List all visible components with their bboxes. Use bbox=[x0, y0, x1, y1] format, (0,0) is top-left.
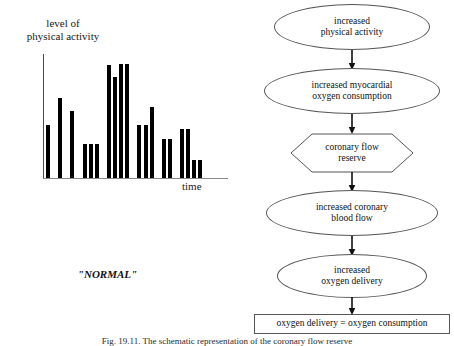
chart-bar bbox=[113, 77, 117, 178]
arrow-down-icon bbox=[348, 114, 357, 134]
chart-plot-area bbox=[43, 54, 228, 179]
chart-y-axis-label-line-1: level of bbox=[8, 17, 118, 30]
flow-node-4-line-2: blood flow bbox=[316, 213, 388, 225]
flow-node-1-line-1: increased bbox=[321, 16, 384, 28]
flow-node-5-line-1: increased bbox=[321, 265, 382, 277]
flow-arrow-3 bbox=[348, 172, 357, 192]
chart-bars bbox=[46, 54, 228, 178]
flow-node-increased-oxygen-delivery: increased oxygen delivery bbox=[277, 254, 427, 298]
flow-node-4-line-1: increased coronary bbox=[316, 202, 388, 214]
chart-bar bbox=[125, 64, 129, 178]
arrow-down-icon bbox=[348, 236, 357, 256]
chart-bar bbox=[137, 125, 141, 178]
chart-bar bbox=[95, 144, 99, 178]
chart-bar bbox=[46, 125, 50, 178]
chart-y-axis-label-line-2: physical activity bbox=[8, 30, 118, 43]
flow-arrow-4 bbox=[348, 236, 357, 256]
chart-bar bbox=[192, 160, 196, 178]
physical-activity-chart-panel: level of physical activity time "NORMAL" bbox=[0, 0, 250, 310]
flow-node-5-line-2: oxygen delivery bbox=[321, 276, 382, 288]
chart-x-axis-line bbox=[43, 178, 228, 179]
arrow-down-icon bbox=[348, 297, 357, 315]
flow-node-2-line-2: oxygen consumption bbox=[312, 91, 393, 103]
chart-normal-annotation: "NORMAL" bbox=[0, 268, 215, 280]
chart-bar bbox=[58, 98, 62, 178]
chart-bar bbox=[168, 139, 172, 178]
flow-node-increased-coronary-blood-flow: increased coronary blood flow bbox=[266, 190, 438, 236]
chart-bar bbox=[119, 64, 123, 178]
flow-node-2-line-1: increased myocardial bbox=[312, 80, 393, 92]
flow-node-coronary-flow-reserve: coronary flow reserve bbox=[290, 133, 414, 173]
flow-node-increased-myocardial-oxygen-consumption: increased myocardial oxygen consumption bbox=[264, 68, 440, 114]
chart-bar bbox=[89, 144, 93, 178]
chart-bar bbox=[198, 160, 202, 178]
flow-arrow-1 bbox=[348, 50, 357, 70]
arrow-down-icon bbox=[348, 172, 357, 192]
chart-y-axis-line bbox=[43, 54, 44, 179]
flow-node-6-line-1: oxygen delivery = oxygen consumption bbox=[277, 318, 428, 330]
chart-bar bbox=[180, 129, 184, 178]
flow-node-increased-physical-activity: increased physical activity bbox=[274, 4, 430, 50]
chart-bar bbox=[107, 65, 111, 178]
figure-caption: Fig. 19.11. The schematic representation… bbox=[0, 336, 454, 346]
coronary-flow-diagram: increased physical activity increased my… bbox=[250, 0, 454, 330]
chart-bar bbox=[186, 129, 190, 178]
chart-bar bbox=[162, 139, 166, 178]
flow-arrow-5 bbox=[348, 297, 357, 315]
flow-arrow-2 bbox=[348, 114, 357, 134]
chart-y-axis-label: level of physical activity bbox=[8, 17, 118, 43]
chart-bar bbox=[150, 107, 154, 178]
chart-x-axis-label: time bbox=[182, 180, 202, 192]
flow-node-1-line-2: physical activity bbox=[321, 27, 384, 39]
flow-node-3-line-2: reserve bbox=[325, 153, 379, 165]
arrow-down-icon bbox=[348, 50, 357, 70]
flow-node-oxygen-balance: oxygen delivery = oxygen consumption bbox=[254, 314, 450, 334]
chart-bar bbox=[70, 111, 74, 178]
chart-bar bbox=[83, 144, 87, 178]
flow-node-3-line-1: coronary flow bbox=[325, 142, 379, 154]
chart-bar bbox=[144, 125, 148, 178]
